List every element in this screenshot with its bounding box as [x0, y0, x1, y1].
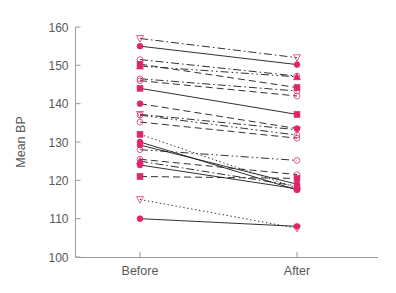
y-tick-label: 160 — [48, 21, 68, 35]
data-markers-group — [137, 36, 301, 232]
data-point-marker — [294, 176, 300, 182]
data-point-marker — [137, 216, 143, 222]
x-category-label-after: After — [284, 264, 310, 278]
data-point-marker — [137, 43, 143, 49]
data-point-marker — [294, 223, 300, 229]
series-line — [140, 46, 297, 64]
chart-container: 100110120130140150160 Mean BP Before Aft… — [0, 0, 396, 293]
data-point-marker — [137, 162, 143, 168]
y-axis-title: Mean BP — [14, 116, 28, 167]
x-category-label-before: Before — [122, 264, 159, 278]
y-tick-label: 130 — [48, 136, 68, 150]
series-line — [140, 150, 297, 161]
data-series-group — [140, 39, 297, 229]
x-axis-ticks — [140, 252, 297, 257]
data-point-marker — [294, 186, 300, 192]
series-line — [140, 159, 297, 174]
series-line — [140, 39, 297, 58]
series-line — [140, 114, 297, 129]
series-line — [140, 88, 297, 114]
series-line — [140, 79, 297, 91]
y-tick-label: 140 — [48, 97, 68, 111]
data-point-marker — [137, 101, 143, 107]
y-tick-label: 110 — [49, 212, 68, 226]
y-tick-label: 100 — [48, 251, 68, 265]
data-point-marker — [294, 112, 300, 118]
data-point-marker — [294, 62, 300, 68]
y-tick-label: 120 — [48, 174, 68, 188]
data-point-marker — [294, 55, 301, 62]
series-line — [140, 81, 297, 96]
series-line — [140, 142, 297, 190]
data-point-marker — [137, 131, 143, 137]
y-tick-label: 150 — [48, 59, 68, 73]
series-line — [140, 219, 297, 227]
series-line — [140, 200, 297, 229]
data-point-marker — [137, 174, 143, 180]
before-after-paired-line-chart: 100110120130140150160 Mean BP Before Aft… — [0, 0, 396, 293]
data-point-marker — [137, 85, 143, 91]
